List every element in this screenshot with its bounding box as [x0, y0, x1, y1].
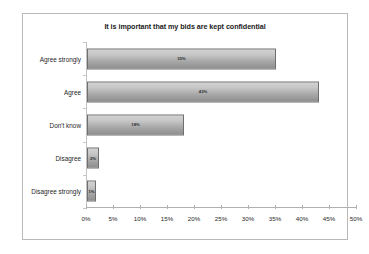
x-axis-tick [140, 205, 141, 209]
x-axis-tick-label: 50% [350, 215, 362, 222]
y-axis-tick [83, 142, 86, 143]
bar: 18% [87, 114, 184, 135]
x-axis-tick [248, 205, 249, 209]
category-label: Don't know [50, 121, 81, 128]
bar-value-label: 18% [131, 122, 139, 127]
y-axis-tick [83, 108, 86, 109]
x-axis-tick [167, 205, 168, 209]
x-axis-tick [275, 205, 276, 209]
bar-value-label: 1% [88, 189, 94, 194]
x-axis-tick [356, 205, 357, 209]
x-axis-tick-label: 30% [242, 215, 254, 222]
y-axis-tick [83, 175, 86, 176]
x-axis-tick [329, 205, 330, 209]
x-axis-tick [86, 205, 87, 209]
x-axis-tick-label: 5% [109, 215, 118, 222]
plot-area: Agree strongly 35% Agree 43% Don't know … [86, 42, 356, 208]
bar-row: Disagree strongly 1% [86, 175, 356, 208]
x-axis-tick-label: 40% [296, 215, 308, 222]
bar: 35% [87, 48, 276, 69]
x-axis-tick-label: 10% [134, 215, 146, 222]
bar: 2% [87, 148, 99, 169]
x-axis-tick-label: 35% [269, 215, 281, 222]
x-axis-tick [113, 205, 114, 209]
chart-frame: It is important that my bids are kept co… [22, 13, 348, 240]
bar: 1% [87, 181, 96, 202]
bar-value-label: 43% [199, 89, 207, 94]
bar-row: Disagree 2% [86, 142, 356, 175]
x-axis-tick-label: 45% [323, 215, 335, 222]
bar-row: Agree 43% [86, 75, 356, 108]
y-axis-tick [83, 42, 86, 43]
category-label: Disagree strongly [31, 188, 81, 195]
category-label: Agree [64, 88, 81, 95]
category-label: Disagree [55, 155, 81, 162]
x-axis-tick-label: 15% [161, 215, 173, 222]
bar-value-label: 35% [177, 56, 185, 61]
bar-row: Agree strongly 35% [86, 42, 356, 75]
x-axis-tick-label: 0% [82, 215, 91, 222]
bar-value-label: 2% [90, 156, 96, 161]
x-axis-tick [302, 205, 303, 209]
x-axis-tick-label: 25% [215, 215, 227, 222]
bar: 43% [87, 81, 319, 102]
chart-title: It is important that my bids are kept co… [23, 22, 347, 31]
x-axis-tick [194, 205, 195, 209]
bar-row: Don't know 18% [86, 108, 356, 141]
x-axis-tick-label: 20% [188, 215, 200, 222]
y-axis-tick [83, 75, 86, 76]
x-axis-tick [221, 205, 222, 209]
category-label: Agree strongly [40, 55, 81, 62]
